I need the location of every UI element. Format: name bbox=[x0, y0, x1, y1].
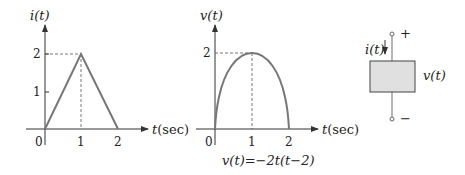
x-tick-label-0: 0 bbox=[205, 135, 213, 149]
top-terminal bbox=[390, 32, 394, 36]
element-box bbox=[370, 61, 415, 92]
y-tick-label-2: 2 bbox=[33, 47, 41, 61]
x-tick-label-2: 2 bbox=[114, 135, 122, 149]
x-tick-label-1: 1 bbox=[77, 135, 85, 149]
ylabel: v(t) bbox=[200, 8, 223, 23]
x-tick-label-1: 1 bbox=[248, 135, 256, 149]
x-tick-label-2: 2 bbox=[285, 135, 293, 149]
plus-sign: + bbox=[400, 26, 411, 41]
ylabel: i(t) bbox=[30, 8, 50, 23]
current-plot: i(t) t(sec) 2 1 0 1 2 bbox=[26, 8, 189, 149]
xlabel: t(sec) bbox=[152, 122, 189, 137]
circuit-element: i(t) + − v(t) bbox=[365, 26, 446, 126]
y-tick-label-1: 1 bbox=[33, 85, 41, 99]
x-tick-label-0: 0 bbox=[35, 135, 43, 149]
current-label: i(t) bbox=[365, 42, 385, 57]
current-curve bbox=[45, 54, 118, 129]
equation: v(t)=−2t(t−2) bbox=[222, 153, 315, 168]
y-tick-label-2: 2 bbox=[203, 46, 211, 60]
voltage-label: v(t) bbox=[423, 68, 446, 83]
voltage-plot: v(t) t(sec) 2 0 1 2 v(t)=−2t(t−2) bbox=[196, 8, 359, 168]
xlabel: t(sec) bbox=[322, 122, 359, 137]
minus-sign: − bbox=[400, 111, 411, 126]
bottom-terminal bbox=[390, 117, 394, 121]
